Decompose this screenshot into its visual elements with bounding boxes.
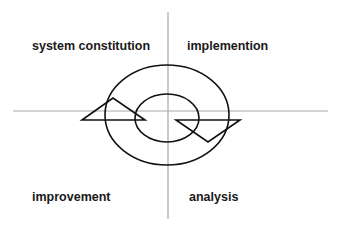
- quadrant-label-analysis: analysis: [189, 191, 238, 204]
- quadrant-label-system-constitution: system constitution: [32, 40, 150, 53]
- quadrant-label-improvement: improvement: [32, 191, 111, 204]
- inner-ring: [135, 94, 199, 142]
- outer-ring: [105, 65, 229, 165]
- quadrant-label-implemention: implemention: [187, 40, 268, 53]
- quadrant-cycle-diagram: system constitution implemention improve…: [0, 0, 337, 226]
- arrowhead-right-icon: [176, 120, 240, 142]
